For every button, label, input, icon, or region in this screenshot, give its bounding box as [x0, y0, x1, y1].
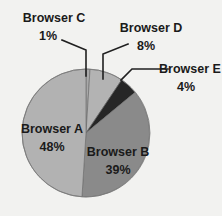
label-browser-e-name: Browser E: [159, 62, 221, 76]
label-browser-e-percent: 4%: [177, 80, 195, 94]
pie-chart-svg: Browser C 1% Browser D 8% Browser E 4% B…: [0, 0, 222, 216]
label-browser-b-percent: 39%: [105, 163, 130, 177]
label-browser-d-percent: 8%: [137, 39, 155, 53]
label-browser-a-name: Browser A: [21, 122, 83, 136]
pie-chart-figure: Browser C 1% Browser D 8% Browser E 4% B…: [0, 0, 222, 216]
label-browser-d-name: Browser D: [120, 21, 183, 35]
label-browser-c-name: Browser C: [23, 11, 86, 25]
label-browser-b-name: Browser B: [87, 145, 150, 159]
label-browser-c-percent: 1%: [39, 29, 57, 43]
label-browser-a-percent: 48%: [39, 140, 64, 154]
